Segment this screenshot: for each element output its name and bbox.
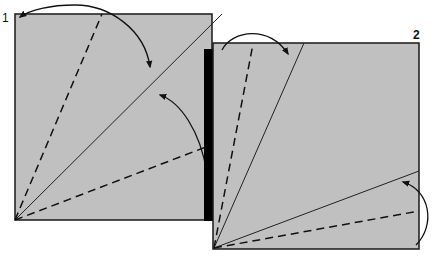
- step-2-label: 2: [413, 29, 420, 41]
- step-1-diagram: [15, 5, 222, 220]
- step-1-paper: [15, 14, 212, 220]
- folded-edge-bar: [204, 49, 213, 221]
- step-1-label: 1: [2, 12, 9, 24]
- step-2-diagram: [213, 34, 428, 249]
- step-2-paper: [213, 43, 419, 249]
- origami-diagram: [0, 0, 437, 259]
